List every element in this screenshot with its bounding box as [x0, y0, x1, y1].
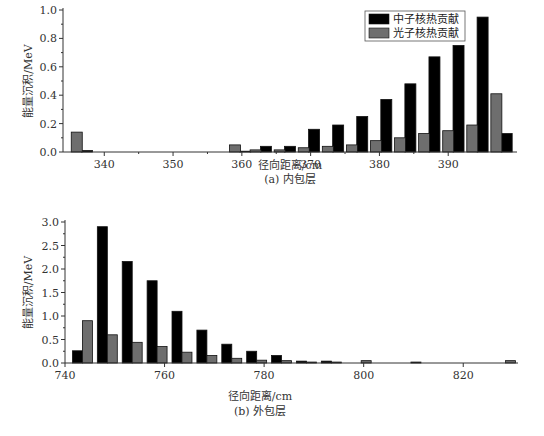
photon-bar	[467, 125, 478, 152]
neutron-bar	[97, 227, 107, 363]
photon-bar	[229, 145, 240, 152]
neutron-bar	[72, 351, 82, 363]
y-tick-label: 2.0	[42, 263, 60, 276]
neutron-bar	[222, 344, 232, 363]
x-tick-label: 340	[94, 158, 115, 171]
photon-bar	[182, 352, 192, 363]
photon-bar	[443, 131, 454, 152]
neutron-bar	[260, 146, 271, 152]
y-tick-label: 1.0	[42, 310, 60, 323]
y-tick-label: 3.0	[42, 216, 60, 229]
neutron-bar	[197, 330, 207, 363]
x-tick-label: 390	[438, 158, 459, 171]
neutron-bar	[405, 84, 416, 152]
neutron-bar	[429, 57, 440, 152]
x-tick-label: 350	[163, 158, 184, 171]
photon-bar	[491, 94, 502, 152]
neutron-bar	[477, 17, 488, 152]
chart-inner-blanket: 0.00.20.40.60.81.0340350360370380390能量沉积…	[0, 0, 544, 205]
neutron-bar	[453, 46, 464, 153]
photon-bar	[157, 347, 167, 363]
neutron-bar	[172, 311, 182, 363]
neutron-bar	[381, 99, 392, 152]
photon-bar	[370, 141, 381, 152]
x-axis-title-outer: 径向距离/cm	[160, 387, 360, 403]
neutron-bar	[247, 351, 257, 363]
x-tick-label: 760	[154, 369, 175, 382]
y-tick-label: 0.2	[40, 118, 58, 131]
photon-bar	[419, 134, 430, 152]
y-tick-label: 0.8	[40, 32, 58, 45]
legend-label-neutron: 中子核热贡献	[393, 12, 459, 26]
x-tick-label: 820	[453, 369, 474, 382]
chart-outer-blanket: 0.00.51.01.52.02.53.0740760780800820能量沉积…	[0, 205, 544, 436]
legend-swatch-photon	[369, 28, 389, 38]
y-axis-title: 能量沉积/MeV	[21, 43, 35, 117]
photon-bar	[395, 138, 406, 152]
photon-bar	[207, 355, 217, 363]
photon-bar	[107, 335, 117, 363]
legend-swatch-neutron	[369, 14, 389, 24]
photon-bar	[346, 145, 357, 152]
legend: 中子核热贡献光子核热贡献	[365, 11, 465, 41]
neutron-bar	[309, 129, 320, 152]
photon-bar	[132, 342, 142, 363]
y-tick-label: 0.6	[40, 61, 58, 74]
x-tick-label: 780	[254, 369, 275, 382]
y-tick-label: 0.0	[40, 146, 58, 159]
x-tick-label: 740	[55, 369, 76, 382]
neutron-bar	[501, 134, 512, 152]
photon-bar	[82, 321, 92, 363]
y-tick-label: 0.4	[40, 89, 58, 102]
photon-bar	[298, 148, 309, 152]
photon-bar	[322, 146, 333, 152]
y-tick-label: 2.5	[42, 240, 60, 253]
photon-bar	[232, 358, 242, 363]
y-tick-label: 1.0	[40, 4, 58, 17]
photon-bar	[71, 132, 82, 152]
subfigure-caption-outer: (b) 外包层	[160, 402, 360, 418]
neutron-bar	[147, 281, 157, 363]
subfigure-caption-inner: (a) 内包层	[190, 170, 390, 186]
neutron-bar	[122, 261, 132, 363]
y-tick-label: 0.5	[42, 334, 60, 347]
neutron-bar	[285, 146, 296, 152]
neutron-bar	[333, 125, 344, 152]
y-axis-title: 能量沉积/MeV	[21, 255, 35, 329]
y-tick-label: 1.5	[42, 287, 60, 300]
neutron-bar	[357, 117, 368, 153]
neutron-bar	[272, 355, 282, 363]
legend-label-photon: 光子核热贡献	[393, 26, 459, 40]
x-tick-label: 800	[353, 369, 374, 382]
